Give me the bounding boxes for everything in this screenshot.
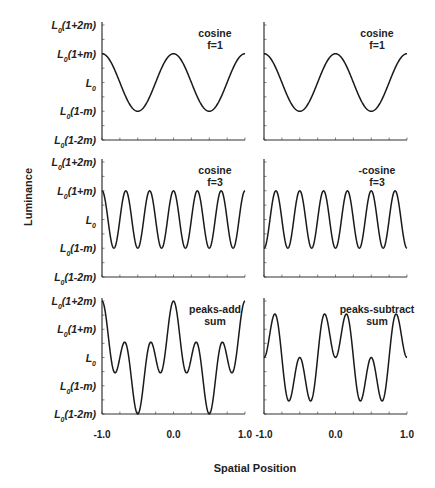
y-tick-label: L0 (86, 214, 96, 229)
panel-cosine-f-1: cosinef=1L0(1+2m)L0(1+m)L0L0(1-m)L0(1-2m… (52, 19, 245, 149)
y-tick-label: L0(1-2m) (54, 134, 96, 149)
panel-annotation: cosine (198, 164, 231, 176)
x-tick-label: 1.0 (238, 429, 252, 440)
luminance-curve (264, 191, 407, 249)
panel-annotation: peaks-add (189, 303, 241, 315)
luminance-curve (264, 314, 407, 401)
luminance-figure: cosinef=1L0(1+2m)L0(1+m)L0L0(1-m)L0(1-2m… (0, 0, 435, 488)
panel-annotation: peaks-subtract (340, 303, 415, 315)
y-tick-label: L0(1+2m) (52, 156, 97, 171)
panel-peaks-subtract-sum: peaks-subtractsum (264, 298, 415, 414)
panel-annotation: -cosine (359, 164, 396, 176)
luminance-curve (264, 54, 407, 112)
panel--cosine-f-3: -cosinef=3 (264, 159, 407, 277)
x-tick-label: 1.0 (400, 429, 414, 440)
y-axis-title: Luminance (22, 168, 34, 226)
panel-annotation-sub: sum (204, 315, 226, 327)
luminance-curve (102, 191, 245, 249)
panel-cosine-f-1: cosinef=1 (264, 22, 407, 140)
y-tick-label: L0(1-2m) (54, 271, 96, 286)
panel-annotation-sub: f=1 (369, 39, 385, 51)
panel-annotation-sub: f=1 (207, 39, 223, 51)
panel-annotation: cosine (360, 27, 393, 39)
x-tick-label: -1.0 (93, 429, 111, 440)
y-tick-label: L0(1+2m) (52, 19, 97, 34)
y-tick-label: L0(1-m) (60, 105, 96, 120)
panel-annotation-sub: f=3 (369, 176, 385, 188)
y-tick-label: L0(1+2m) (52, 295, 97, 310)
y-tick-label: L0 (86, 352, 96, 367)
panel-annotation: cosine (198, 27, 231, 39)
x-tick-label: -1.0 (255, 429, 273, 440)
panel-annotation-sub: sum (366, 315, 388, 327)
x-axis-title: Spatial Position (214, 462, 297, 474)
x-tick-label: 0.0 (329, 429, 343, 440)
y-tick-label: L0(1+m) (57, 48, 96, 63)
y-tick-label: L0(1-m) (60, 380, 96, 395)
y-tick-label: L0(1-m) (60, 242, 96, 257)
y-tick-label: L0(1+m) (57, 185, 96, 200)
luminance-curve (102, 54, 245, 112)
y-tick-label: L0(1+m) (57, 323, 96, 338)
y-tick-label: L0(1-2m) (54, 408, 96, 423)
x-tick-label: 0.0 (167, 429, 181, 440)
panel-cosine-f-3: cosinef=3L0(1+2m)L0(1+m)L0L0(1-m)L0(1-2m… (52, 156, 245, 286)
panel-annotation-sub: f=3 (207, 176, 223, 188)
y-tick-label: L0 (86, 77, 96, 92)
panel-peaks-add-sum: peaks-addsumL0(1+2m)L0(1+m)L0L0(1-m)L0(1… (52, 295, 245, 423)
